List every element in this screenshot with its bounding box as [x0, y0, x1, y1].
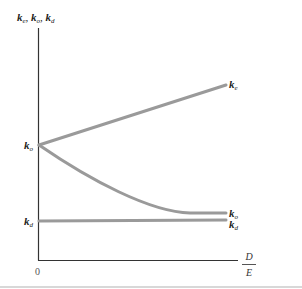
series-kd-line [39, 220, 226, 221]
chart-plot [0, 0, 302, 289]
fraction-bar [242, 264, 256, 265]
y-tick-kd: kd [24, 216, 33, 229]
origin-label: 0 [35, 267, 40, 277]
series-ko-curve [39, 145, 226, 213]
y-tick-ko: ko [24, 140, 33, 153]
label-kd: kd [229, 219, 238, 232]
x-axis-numerator: D [245, 251, 252, 262]
series-ke-line [39, 85, 226, 145]
y-axis-title: ke, ko, kd [17, 12, 55, 25]
chart-figure: ke, ko, kd ko kd ke ko kd 0 D E [0, 0, 302, 289]
x-axis-denominator: E [246, 267, 252, 278]
bottom-divider [0, 286, 302, 288]
x-axis-title: D E [242, 251, 256, 278]
label-ke: ke [229, 79, 238, 92]
